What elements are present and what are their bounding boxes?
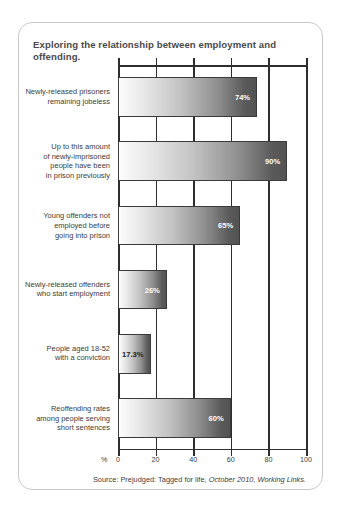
bar-row: Reoffending rates among people serving s…: [118, 398, 306, 438]
tick-top-100: [306, 58, 308, 65]
bar-value-label: 17.3%: [122, 349, 144, 358]
bar: 74%: [118, 77, 257, 117]
source-citation: October 2010, Working Links.: [209, 475, 306, 484]
bar-row: People aged 18-52 with a conviction17.3%: [118, 334, 306, 374]
bar: 26%: [118, 270, 167, 310]
bar-value-label: 60%: [209, 413, 224, 422]
bar-category-label: Up to this amount of newly-imprisoned pe…: [18, 142, 110, 180]
bar-value-label: 90%: [265, 157, 280, 166]
tick-top-0: [118, 58, 120, 65]
plot-area: Newly-released prisoners remaining jobel…: [118, 65, 306, 450]
axis-unit-label: %: [101, 455, 107, 464]
bar-category-label: Newly-released offenders who start emplo…: [18, 280, 110, 299]
x-axis-tick-labels: 020406080100: [118, 455, 306, 467]
bar-category-label: Newly-released prisoners remaining jobel…: [18, 87, 110, 106]
tick-top-80: [268, 58, 270, 65]
bar-row: Newly-released offenders who start emplo…: [118, 270, 306, 310]
x-tick-label-0: 0: [116, 455, 120, 464]
bar-value-label: 26%: [145, 285, 160, 294]
bar-category-label: Young offenders not employed before goin…: [18, 211, 110, 240]
tick-top-40: [193, 58, 195, 65]
chart-card: Exploring the relationship between emplo…: [18, 22, 323, 490]
x-tick-label-60: 60: [227, 455, 235, 464]
tick-top-60: [231, 58, 233, 65]
bar: 60%: [118, 398, 231, 438]
x-tick-label-20: 20: [152, 455, 160, 464]
bar-category-label: Reoffending rates among people serving s…: [18, 404, 110, 433]
bar: 90%: [118, 141, 287, 181]
page-title: Exploring the relationship between emplo…: [33, 39, 315, 63]
x-tick-label-80: 80: [264, 455, 272, 464]
source-note: Source: Prejudged: Tagged for life, Octo…: [19, 475, 306, 484]
bar-rows: Newly-released prisoners remaining jobel…: [118, 65, 306, 450]
source-prefix: Source: Prejudged: Tagged for life,: [93, 475, 207, 484]
bar: 17.3%: [118, 334, 151, 374]
x-tick-label-100: 100: [300, 455, 312, 464]
x-tick-label-40: 40: [189, 455, 197, 464]
bar: 65%: [118, 206, 240, 246]
tick-top-20: [156, 58, 158, 65]
gridline-100: [306, 65, 308, 450]
bar-row: Young offenders not employed before goin…: [118, 206, 306, 246]
bar-category-label: People aged 18-52 with a conviction: [18, 344, 110, 363]
bar-row: Newly-released prisoners remaining jobel…: [118, 77, 306, 117]
bar-row: Up to this amount of newly-imprisoned pe…: [118, 141, 306, 181]
bar-value-label: 65%: [218, 221, 233, 230]
bar-value-label: 74%: [235, 93, 250, 102]
